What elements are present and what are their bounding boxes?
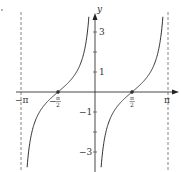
y-tick-label-3: 3 (99, 27, 105, 37)
svg-text:π: π (130, 94, 134, 101)
y-axis-arrow-icon (93, 13, 98, 20)
chart: y 3 1 −1 −3 −π π − π 2 π 2 (0, 0, 181, 172)
x-tick-label-pi: π (164, 95, 170, 105)
x-tick-label-neg-half-pi: − π 2 (49, 94, 61, 108)
y-tick-label-neg1: −1 (79, 107, 92, 117)
y-tick-label-1: 1 (99, 67, 105, 77)
svg-text:2: 2 (56, 101, 60, 108)
svg-text:π: π (56, 94, 60, 101)
stray-dot (1, 9, 3, 11)
svg-text:2: 2 (130, 101, 134, 108)
y-tick-label-neg3: −3 (79, 147, 93, 157)
x-tick-label-neg-pi: −π (15, 95, 29, 105)
y-axis-label: y (96, 4, 103, 14)
x-axis-arrow-icon (172, 90, 179, 95)
x-tick-label-half-pi: π 2 (130, 94, 136, 108)
